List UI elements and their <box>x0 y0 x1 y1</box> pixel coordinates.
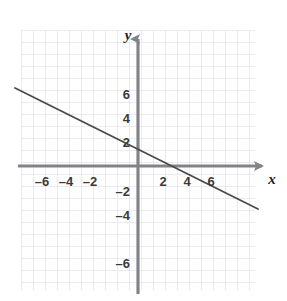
y-tick-label-neg6: –6 <box>116 256 130 271</box>
y-tick-label-4: 4 <box>123 111 131 126</box>
y-tick-label-6: 6 <box>123 87 130 102</box>
coordinate-plane-svg: –6 –4 –2 2 4 6 6 4 2 –2 –4 –6 y x <box>0 0 287 301</box>
x-tick-label-4: 4 <box>183 174 191 189</box>
x-tick-label-6: 6 <box>207 174 214 189</box>
x-axis-label: x <box>267 171 276 187</box>
x-tick-label-neg6: –6 <box>35 174 49 189</box>
y-axis-label: y <box>123 27 132 43</box>
x-tick-label-neg4: –4 <box>59 174 74 189</box>
y-tick-label-2: 2 <box>123 135 130 150</box>
x-tick-label-neg2: –2 <box>83 174 97 189</box>
y-tick-label-neg4: –4 <box>116 208 131 223</box>
x-tick-label-2: 2 <box>159 174 166 189</box>
y-tick-label-neg2: –2 <box>116 184 130 199</box>
coordinate-plane-figure: –6 –4 –2 2 4 6 6 4 2 –2 –4 –6 y x <box>0 0 287 301</box>
